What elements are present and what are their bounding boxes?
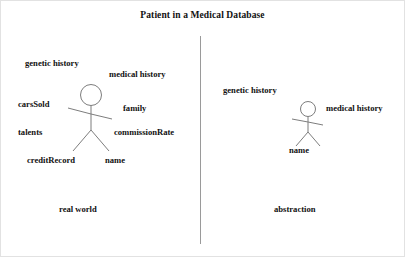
label-genetic-history-abstraction: genetic history <box>223 86 277 95</box>
label-credit-record: creditRecord <box>27 156 75 165</box>
label-medical-history-real: medical history <box>109 70 166 79</box>
label-cars-sold: carsSold <box>18 100 50 109</box>
vertical-divider <box>200 36 201 244</box>
label-talents: talents <box>18 128 42 137</box>
label-name-real: name <box>105 156 125 165</box>
stick-figure-real-world <box>63 83 119 153</box>
label-genetic-history-real: genetic history <box>25 59 79 68</box>
stick-figure-abstraction <box>289 101 327 147</box>
label-medical-history-abstraction: medical history <box>326 104 383 113</box>
caption-abstraction: abstraction <box>274 205 316 214</box>
label-commission-rate: commissionRate <box>114 128 174 137</box>
label-name-abstraction: name <box>289 146 309 155</box>
page-title: Patient in a Medical Database <box>1 10 404 20</box>
label-family: family <box>123 104 146 113</box>
diagram-canvas: Patient in a Medical Database genetic hi… <box>0 0 405 257</box>
caption-real-world: real world <box>59 205 97 214</box>
